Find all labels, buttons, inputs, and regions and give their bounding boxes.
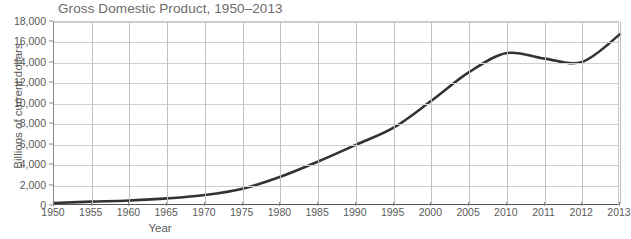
- gridline-vertical: [507, 22, 508, 204]
- gridline-vertical: [356, 22, 357, 204]
- y-axis-tick-label: 12,000: [0, 76, 46, 88]
- gridline-horizontal: [54, 83, 618, 84]
- y-axis-tick-label: 2,000: [0, 179, 46, 191]
- x-axis-tick-mark: [581, 202, 582, 206]
- gridline-vertical: [582, 22, 583, 204]
- gridline-vertical: [129, 22, 130, 204]
- x-axis-tick-mark: [317, 202, 318, 206]
- series-line-gross-domestic-product: [54, 34, 620, 203]
- gridline-horizontal: [54, 63, 618, 64]
- x-axis-tick-mark: [91, 202, 92, 206]
- gridline-vertical: [394, 22, 395, 204]
- gridline-horizontal: [54, 165, 618, 166]
- plot-area: [53, 21, 619, 205]
- y-axis-tick-label: 10,000: [0, 97, 46, 109]
- gridline-vertical: [280, 22, 281, 204]
- x-axis-tick-label: 2000: [419, 206, 442, 218]
- y-axis-tick-label: 8,000: [0, 117, 46, 129]
- x-axis-tick-mark: [204, 202, 205, 206]
- gridline-horizontal: [54, 42, 618, 43]
- x-axis-tick-label: 1955: [79, 206, 102, 218]
- gridline-vertical: [205, 22, 206, 204]
- x-axis-tick-label: 2013: [607, 206, 630, 218]
- gridline-vertical: [431, 22, 432, 204]
- x-axis-tick-mark: [166, 202, 167, 206]
- y-axis-tick-label: 16,000: [0, 35, 46, 47]
- gridline-horizontal: [54, 186, 618, 187]
- gridline-horizontal: [54, 145, 618, 146]
- y-axis-ticks: 02,0004,0006,0008,00010,00012,00014,0001…: [0, 21, 49, 205]
- y-axis-tick-label: 4,000: [0, 158, 46, 170]
- x-axis-tick-label: 1960: [117, 206, 140, 218]
- series-line-layer: [54, 22, 620, 206]
- x-axis-tick-label: 1950: [41, 206, 64, 218]
- x-axis-tick-mark: [619, 202, 620, 206]
- gridline-horizontal: [54, 104, 618, 105]
- x-axis-tick-mark: [279, 202, 280, 206]
- x-axis-tick-label: 1980: [268, 206, 291, 218]
- y-axis-tick-label: 6,000: [0, 138, 46, 150]
- y-axis-tick-label: 18,000: [0, 15, 46, 27]
- x-axis-tick-label: 2010: [494, 206, 517, 218]
- chart-title: Gross Domestic Product, 1950–2013: [58, 1, 283, 16]
- x-axis-title: Year: [120, 222, 200, 234]
- x-axis-tick-label: 2011: [532, 206, 555, 218]
- gridline-vertical: [167, 22, 168, 204]
- x-axis-tick-label: 1995: [381, 206, 404, 218]
- x-axis-tick-label: 1965: [155, 206, 178, 218]
- x-axis-tick-mark: [468, 202, 469, 206]
- x-axis-tick-label: 1990: [343, 206, 366, 218]
- x-axis-tick-mark: [128, 202, 129, 206]
- y-axis-tick-label: 14,000: [0, 56, 46, 68]
- x-axis-tick-mark: [393, 202, 394, 206]
- x-axis-tick-mark: [53, 202, 54, 206]
- gridline-horizontal: [54, 22, 618, 23]
- y-axis-tick-label: 0: [0, 199, 46, 211]
- gridline-horizontal: [54, 124, 618, 125]
- x-axis-tick-label: 1970: [192, 206, 215, 218]
- x-axis-tick-label: 2005: [456, 206, 479, 218]
- gridline-vertical: [545, 22, 546, 204]
- gridline-vertical: [92, 22, 93, 204]
- x-axis-tick-label: 1975: [230, 206, 253, 218]
- x-axis-tick-label: 1985: [305, 206, 328, 218]
- gridline-vertical: [469, 22, 470, 204]
- x-axis-tick-mark: [355, 202, 356, 206]
- x-axis-tick-mark: [544, 202, 545, 206]
- x-axis-tick-mark: [242, 202, 243, 206]
- x-axis-tick-mark: [506, 202, 507, 206]
- gridline-vertical: [620, 22, 621, 204]
- gridline-vertical: [318, 22, 319, 204]
- gridline-vertical: [243, 22, 244, 204]
- x-axis-tick-label: 2012: [570, 206, 593, 218]
- x-axis-tick-mark: [430, 202, 431, 206]
